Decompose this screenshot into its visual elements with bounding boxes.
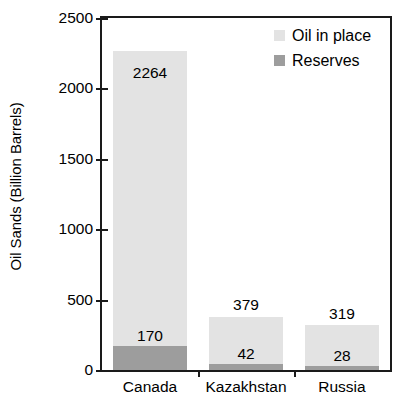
- bar-value-label-oil-in-place: 319: [329, 306, 355, 322]
- y-tick-label: 1000: [59, 221, 93, 237]
- bar-value-label-reserves: 170: [137, 328, 163, 344]
- x-category-label-canada: Canada: [123, 379, 177, 395]
- plot-area: 05001000150020002500 22641703794231928 O…: [100, 16, 392, 372]
- legend-swatch-icon: [274, 30, 285, 41]
- bar-segment-reserves[interactable]: [305, 366, 379, 370]
- bar-segment-reserves[interactable]: [113, 346, 187, 370]
- y-tick-mark: [96, 300, 108, 302]
- y-tick-mark: [96, 229, 108, 231]
- legend-label: Reserves: [292, 53, 360, 69]
- bar-chart: Oil Sands (Billion Barrels) 050010001500…: [0, 0, 409, 412]
- legend-item[interactable]: Reserves: [274, 48, 371, 73]
- y-tick-mark: [96, 159, 108, 161]
- bar-value-label-oil-in-place: 2264: [133, 65, 167, 81]
- bar-value-label-reserves: 42: [237, 346, 254, 362]
- y-axis-title-text: Oil Sands (Billion Barrels): [7, 102, 24, 270]
- x-tick-mark: [294, 370, 296, 377]
- x-tick-mark: [198, 370, 200, 377]
- y-tick-label: 1500: [59, 151, 93, 167]
- bar-segment-oil-in-place[interactable]: [113, 51, 187, 370]
- y-tick-mark: [96, 18, 108, 20]
- y-axis-title: Oil Sands (Billion Barrels): [0, 0, 30, 372]
- bar-segment-oil-in-place[interactable]: [209, 317, 283, 370]
- bar-value-label-reserves: 28: [333, 348, 350, 364]
- legend-label: Oil in place: [292, 28, 371, 44]
- bar-canada[interactable]: 2264170: [113, 51, 187, 370]
- chart-legend: Oil in placeReserves: [274, 23, 371, 73]
- legend-item[interactable]: Oil in place: [274, 23, 371, 48]
- y-tick-mark: [96, 370, 108, 372]
- bar-segment-reserves[interactable]: [209, 364, 283, 370]
- bar-russia[interactable]: 31928: [305, 325, 379, 370]
- y-tick-label: 0: [84, 362, 93, 378]
- y-tick-label: 2000: [59, 81, 93, 97]
- legend-swatch-icon: [274, 55, 285, 66]
- y-tick-mark: [96, 88, 108, 90]
- y-tick-label: 500: [67, 292, 93, 308]
- y-tick-label: 2500: [59, 10, 93, 26]
- x-category-label-kazakhstan: Kazakhstan: [206, 379, 287, 395]
- bar-value-label-oil-in-place: 379: [233, 297, 259, 313]
- x-category-label-russia: Russia: [318, 379, 365, 395]
- bar-kazakhstan[interactable]: 37942: [209, 317, 283, 370]
